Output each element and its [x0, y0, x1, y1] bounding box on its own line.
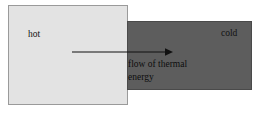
cold-block-label: cold: [221, 29, 237, 39]
thermal-energy-diagram: hot cold flow of thermal energy: [0, 0, 257, 113]
hot-block-label: hot: [28, 30, 40, 40]
flow-caption: flow of thermal energy: [128, 58, 220, 84]
hot-block: [8, 5, 128, 105]
flow-caption-line-2: energy: [128, 71, 220, 84]
flow-caption-line-1: flow of thermal: [128, 59, 187, 69]
